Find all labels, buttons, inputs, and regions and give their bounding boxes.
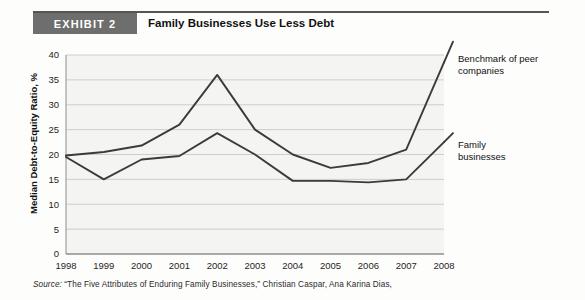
y-tick-label: 20 (48, 149, 59, 160)
x-tick-label: 2001 (169, 260, 190, 271)
x-tick-label: 1999 (93, 260, 114, 271)
exhibit-page: EXHIBIT 2 Family Businesses Use Less Deb… (0, 0, 585, 300)
x-tick-label: 2008 (433, 260, 454, 271)
leader-benchmark (444, 42, 453, 63)
y-tick-label: 25 (48, 124, 59, 135)
leader-family (444, 133, 453, 142)
annotation-benchmark-line1: Benchmark of peer (458, 53, 538, 65)
chart-container: Median Debt-to-Equity Ratio, % 051015202… (0, 40, 585, 272)
page-title: Family Businesses Use Less Debt (148, 14, 334, 33)
y-tick-label: 10 (48, 199, 59, 210)
y-tick-label: 15 (48, 174, 59, 185)
x-tick-label: 2007 (396, 260, 417, 271)
x-tick-label: 2004 (282, 260, 303, 271)
annotation-benchmark-line2: companies (458, 65, 538, 77)
source-note: Source: “The Five Attributes of Enduring… (33, 280, 392, 289)
x-tick-label: 2005 (320, 260, 341, 271)
annotation-family-line2: businesses (458, 151, 506, 163)
source-label: Source: (33, 280, 62, 289)
y-tick-label: 30 (48, 99, 59, 110)
x-tick-label: 2002 (207, 260, 228, 271)
source-text: “The Five Attributes of Enduring Family … (62, 280, 392, 289)
y-tick-label: 40 (48, 49, 59, 60)
exhibit-badge: EXHIBIT 2 (33, 13, 137, 34)
x-tick-label: 1998 (55, 260, 76, 271)
annotation-family-line1: Family (458, 139, 506, 151)
annotation-family: Family businesses (458, 139, 506, 162)
x-tick-label: 2003 (244, 260, 265, 271)
x-tick-label: 2006 (358, 260, 379, 271)
y-tick-label: 35 (48, 74, 59, 85)
y-tick-label: 5 (54, 224, 59, 235)
y-tick-label: 0 (54, 248, 59, 259)
x-tick-label: 2000 (131, 260, 152, 271)
annotation-benchmark: Benchmark of peer companies (458, 53, 538, 76)
